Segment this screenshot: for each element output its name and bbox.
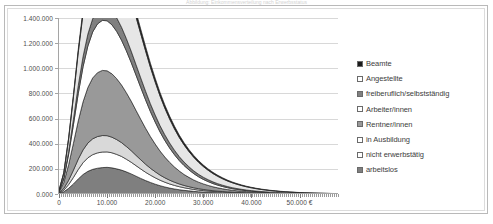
x-minor-tick xyxy=(191,194,192,197)
x-minor-tick xyxy=(177,194,178,197)
legend-item-angestellte[interactable]: Angestellte xyxy=(357,71,493,86)
x-minor-tick xyxy=(288,194,289,197)
x-minor-tick xyxy=(147,194,148,197)
legend-item-beamte[interactable]: Beamte xyxy=(357,56,493,71)
x-minor-tick xyxy=(206,194,207,197)
x-minor-tick xyxy=(280,194,281,197)
x-minor-tick xyxy=(79,194,80,197)
x-minor-tick xyxy=(159,194,160,197)
x-minor-tick xyxy=(91,194,92,197)
chart-frame: 0.000200.000400.000600.000800.0001.000.0… xyxy=(4,5,488,214)
x-minor-tick xyxy=(171,194,172,197)
x-minor-tick xyxy=(183,194,184,197)
x-minor-tick xyxy=(254,194,255,197)
x-minor-tick xyxy=(133,194,134,197)
x-minor-tick xyxy=(218,194,219,197)
x-minor-tick xyxy=(63,194,64,197)
x-minor-tick xyxy=(274,194,275,197)
legend-item-arbeitslos[interactable]: arbeitslos xyxy=(357,162,493,177)
x-minor-tick xyxy=(302,194,303,197)
x-minor-tick xyxy=(167,194,168,197)
legend-label: Angestellte xyxy=(366,74,403,83)
legend-swatch-icon xyxy=(357,76,363,82)
x-minor-tick xyxy=(193,194,194,197)
x-minor-tick xyxy=(240,194,241,197)
x-minor-tick xyxy=(316,194,317,197)
x-major-tick xyxy=(203,194,204,198)
legend-item-arbeiter-innen[interactable]: Arbeiter/innen xyxy=(357,102,493,117)
y-tick-label: 0.000 xyxy=(36,191,53,198)
plot-area xyxy=(58,18,338,194)
x-minor-tick xyxy=(304,194,305,197)
legend-item-rentner-innen[interactable]: Rentner/innen xyxy=(357,117,493,132)
x-minor-tick xyxy=(139,194,140,197)
x-minor-tick xyxy=(143,194,144,197)
x-major-tick xyxy=(155,194,156,198)
x-minor-tick xyxy=(71,194,72,197)
x-minor-tick xyxy=(216,194,217,197)
x-minor-tick xyxy=(151,194,152,197)
y-tick-label: 1.200.000 xyxy=(23,40,53,47)
x-minor-tick xyxy=(195,194,196,197)
legend-item-nicht-erwerbst-tig[interactable]: nicht erwerbstätig xyxy=(357,147,493,162)
x-minor-tick xyxy=(127,194,128,197)
x-minor-tick xyxy=(149,194,150,197)
x-minor-tick xyxy=(75,194,76,197)
x-minor-tick xyxy=(246,194,247,197)
x-minor-tick xyxy=(228,194,229,197)
x-minor-tick xyxy=(306,194,307,197)
x-minor-tick xyxy=(324,194,325,197)
x-minor-tick xyxy=(220,194,221,197)
x-minor-tick xyxy=(292,194,293,197)
x-minor-tick xyxy=(103,194,104,197)
x-minor-tick xyxy=(296,194,297,197)
x-minor-tick xyxy=(318,194,319,197)
x-minor-tick xyxy=(256,194,257,197)
x-minor-tick xyxy=(137,194,138,197)
x-minor-tick xyxy=(244,194,245,197)
legend-swatch-icon xyxy=(357,167,363,173)
legend-swatch-icon xyxy=(357,106,363,112)
x-minor-tick xyxy=(185,194,186,197)
x-minor-tick xyxy=(175,194,176,197)
legend-label: Arbeiter/innen xyxy=(366,105,412,114)
y-tick-label: 400.000 xyxy=(29,140,53,147)
x-minor-tick xyxy=(97,194,98,197)
legend-item-freiberuflich-selbstst-ndig[interactable]: freiberuflich/selbstständig xyxy=(357,86,493,101)
x-minor-tick xyxy=(173,194,174,197)
legend-item-in-ausbildung[interactable]: in Ausbildung xyxy=(357,132,493,147)
y-tick-label: 800.000 xyxy=(29,90,53,97)
x-minor-tick xyxy=(93,194,94,197)
y-tick-mark xyxy=(55,194,58,195)
x-minor-tick xyxy=(65,194,66,197)
x-minor-tick xyxy=(141,194,142,197)
legend-swatch-icon xyxy=(357,152,363,158)
x-minor-tick xyxy=(322,194,323,197)
x-minor-tick xyxy=(238,194,239,197)
x-minor-tick xyxy=(125,194,126,197)
x-minor-tick xyxy=(214,194,215,197)
x-minor-tick xyxy=(113,194,114,197)
x-tick-label: 20.000 xyxy=(145,199,165,207)
x-minor-tick xyxy=(330,194,331,197)
x-minor-tick xyxy=(260,194,261,197)
x-major-tick xyxy=(251,194,252,198)
x-minor-tick xyxy=(312,194,313,197)
x-minor-tick xyxy=(169,194,170,197)
x-minor-tick xyxy=(119,194,120,197)
x-minor-tick xyxy=(200,194,201,197)
legend-label: arbeitslos xyxy=(366,165,398,174)
x-minor-tick xyxy=(165,194,166,197)
x-minor-tick xyxy=(189,194,190,197)
x-minor-tick xyxy=(179,194,180,197)
x-minor-tick xyxy=(282,194,283,197)
x-minor-tick xyxy=(332,194,333,197)
x-minor-tick xyxy=(61,194,62,197)
x-minor-tick xyxy=(87,194,88,197)
x-minor-tick xyxy=(320,194,321,197)
x-axis-labels: 010.00020.00030.00040.00050.000 € xyxy=(5,199,385,211)
x-minor-tick xyxy=(199,194,200,197)
x-minor-tick xyxy=(89,194,90,197)
x-minor-tick xyxy=(85,194,86,197)
x-minor-tick xyxy=(242,194,243,197)
